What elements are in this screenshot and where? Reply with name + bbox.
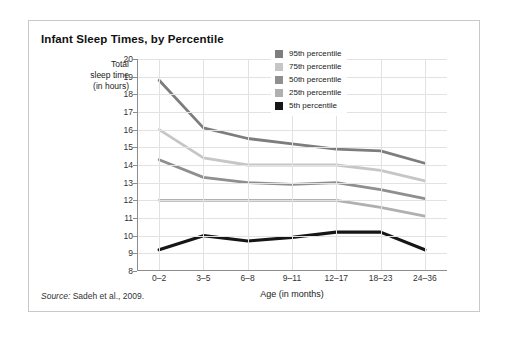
legend-item[interactable]: 50th percentile bbox=[275, 73, 341, 86]
y-axis-tick-mark bbox=[133, 165, 137, 166]
legend-label: 95th percentile bbox=[289, 49, 341, 58]
chart-legend: 95th percentile75th percentile50th perce… bbox=[271, 43, 347, 116]
legend-swatch-icon bbox=[275, 63, 283, 71]
legend-item[interactable]: 75th percentile bbox=[275, 60, 341, 73]
y-axis-title-line-3: (in hours) bbox=[67, 81, 129, 92]
x-axis-tick-label: 18–23 bbox=[369, 273, 393, 283]
y-axis-tick-mark bbox=[133, 94, 137, 95]
y-axis-title-line-2: sleep time bbox=[67, 70, 129, 81]
x-axis-line bbox=[137, 270, 447, 271]
y-axis-tick-mark bbox=[133, 147, 137, 148]
y-axis-tick-mark bbox=[133, 59, 137, 60]
legend-swatch-icon bbox=[275, 102, 283, 110]
y-axis-tick-label: 15 bbox=[124, 142, 133, 152]
y-axis-tick-mark bbox=[133, 218, 137, 219]
legend-item[interactable]: 95th percentile bbox=[275, 47, 341, 60]
x-axis-tick-label: 12–17 bbox=[324, 273, 348, 283]
y-axis-tick-label: 18 bbox=[124, 89, 133, 99]
legend-swatch-icon bbox=[275, 50, 283, 58]
gridline-vertical bbox=[248, 59, 249, 271]
y-axis-tick-label: 17 bbox=[124, 107, 133, 117]
x-axis-tick-label: 6–8 bbox=[241, 273, 255, 283]
x-axis-tick-label: 3–5 bbox=[196, 273, 210, 283]
x-axis-tick-label: 24–36 bbox=[413, 273, 437, 283]
legend-item[interactable]: 25th percentile bbox=[275, 86, 341, 99]
y-axis-tick-label: 10 bbox=[124, 231, 133, 241]
y-axis-tick-label: 16 bbox=[124, 125, 133, 135]
y-axis-tick-label: 14 bbox=[124, 160, 133, 170]
legend-label: 5th percentile bbox=[289, 101, 337, 110]
legend-item[interactable]: 5th percentile bbox=[275, 99, 341, 112]
y-axis-tick-label: 20 bbox=[124, 54, 133, 64]
y-axis-title: Total sleep time (in hours) bbox=[67, 59, 129, 92]
gridline-vertical bbox=[381, 59, 382, 271]
source-note: Source: Sadeh et al., 2009. bbox=[41, 291, 144, 301]
y-axis-tick-mark bbox=[133, 77, 137, 78]
y-axis-tick-mark bbox=[133, 183, 137, 184]
y-axis-tick-mark bbox=[133, 112, 137, 113]
y-axis-tick-label: 12 bbox=[124, 195, 133, 205]
x-axis-tick-label: 0–2 bbox=[152, 273, 166, 283]
source-text: Sadeh et al., 2009. bbox=[73, 291, 144, 301]
y-axis-tick-mark bbox=[133, 236, 137, 237]
x-axis-title: Age (in months) bbox=[137, 289, 447, 299]
chart-card: Infant Sleep Times, by Percentile Total … bbox=[28, 20, 480, 312]
y-axis-tick-mark bbox=[133, 253, 137, 254]
gridline-vertical bbox=[203, 59, 204, 271]
y-axis-tick-mark bbox=[133, 271, 137, 272]
y-axis-tick-label: 11 bbox=[124, 213, 133, 223]
y-axis-line bbox=[137, 59, 138, 271]
legend-swatch-icon bbox=[275, 76, 283, 84]
legend-label: 25th percentile bbox=[289, 88, 341, 97]
y-axis-tick-label: 13 bbox=[124, 178, 133, 188]
y-axis-tick-mark bbox=[133, 130, 137, 131]
y-axis-tick-mark bbox=[133, 200, 137, 201]
legend-label: 75th percentile bbox=[289, 62, 341, 71]
x-axis-tick-label: 9–11 bbox=[283, 273, 301, 283]
legend-label: 50th percentile bbox=[289, 75, 341, 84]
y-axis-title-line-1: Total bbox=[67, 59, 129, 70]
gridline-vertical bbox=[159, 59, 160, 271]
gridline-vertical bbox=[425, 59, 426, 271]
page-title: Infant Sleep Times, by Percentile bbox=[41, 33, 224, 45]
y-axis-tick-label: 19 bbox=[124, 72, 133, 82]
source-prefix: Source: bbox=[41, 291, 70, 301]
legend-swatch-icon bbox=[275, 89, 283, 97]
